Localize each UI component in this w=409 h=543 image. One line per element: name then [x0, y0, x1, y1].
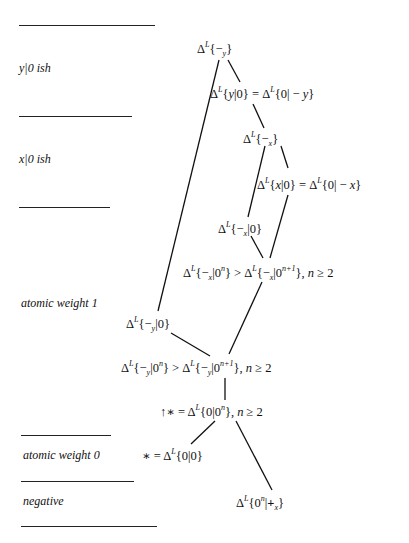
region-label-atomic-weight-1: atomic weight 1: [21, 296, 98, 311]
edge-n9-n10: [191, 421, 215, 444]
edge-n7-n8: [171, 333, 210, 356]
edge-n9-n11: [236, 421, 272, 490]
node-up-star: ↑∗ = ΔL{0|0n}, n ≥ 2: [160, 404, 263, 419]
region-label-atomic-weight-0: atomic weight 0: [23, 448, 100, 463]
separator-line: [19, 116, 132, 117]
region-label-negative: negative: [23, 494, 64, 509]
separator-line: [19, 25, 155, 26]
edge-n2-n3: [253, 104, 264, 128]
edge-n3-n4: [281, 146, 288, 168]
region-label-y-ish: y|0 ish: [19, 61, 51, 76]
node-delta-0n-plus-x: ΔL{0n|+x}: [236, 495, 284, 512]
node-delta-minus-y: ΔL{−y}: [197, 41, 232, 58]
edge-n5-n6: [251, 236, 263, 258]
separator-line: [21, 526, 157, 527]
separator-line: [21, 435, 111, 436]
node-delta-minus-y-chain: ΔL{−y|0n} > ΔL{−y|0n+1}, n ≥ 2: [121, 360, 271, 377]
node-delta-minus-x-0: ΔL{−x|0}: [218, 221, 262, 238]
node-delta-minus-y-0: ΔL{−y|0}: [126, 316, 170, 333]
separator-line: [21, 481, 134, 482]
node-delta-minus-x-chain: ΔL{−x|0n} > ΔL{−x|0n+1}, n ≥ 2: [183, 265, 333, 282]
hasse-diagram: y|0 ish x|0 ish atomic weight 1 atomic w…: [0, 0, 409, 543]
region-label-x-ish: x|0 ish: [19, 152, 51, 167]
edge-n1-n2: [228, 60, 240, 82]
node-delta-x-0: ΔL{x|0} = ΔL{0| − x}: [257, 177, 361, 192]
edge-n4-n6: [270, 195, 288, 258]
separator-line: [19, 207, 110, 208]
edge-n6-n8: [229, 282, 262, 354]
node-star: ∗ = ΔL{0|0}: [142, 448, 203, 463]
node-delta-minus-x: ΔL{−x}: [243, 131, 278, 148]
node-delta-y-0: ΔL{y|0} = ΔL{0| − y}: [210, 86, 314, 101]
